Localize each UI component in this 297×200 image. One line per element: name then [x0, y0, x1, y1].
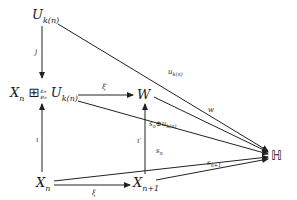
label-u-kn: uk(n)	[168, 69, 183, 77]
label-iota: ι	[36, 137, 39, 144]
label-text: w	[208, 106, 214, 114]
sub-e-sub: n	[44, 95, 47, 100]
label-s-n: sn	[156, 148, 163, 156]
node-sub: k(n)	[43, 16, 59, 25]
boxplus-symbol: ⊞	[29, 85, 40, 100]
node-h: ℍ	[271, 149, 282, 162]
label-sub: n+1	[211, 162, 222, 168]
label-iota-prime: ι′	[137, 138, 141, 145]
label-sub: n	[160, 150, 163, 156]
label-xi-prime: ξ′	[102, 84, 107, 91]
label-text: j	[35, 48, 37, 56]
node-x-n1: Xn+1	[133, 176, 159, 193]
node-base2: U	[51, 85, 62, 100]
label-sub2: k(n)	[166, 123, 176, 129]
label-s-oplus-u: sn⊕uk(n)	[149, 121, 176, 129]
arrow-s-n	[54, 157, 268, 181]
label-text: ι′	[137, 137, 141, 145]
node-sub: n	[45, 184, 50, 193]
node-w: W	[137, 88, 150, 101]
node-base: X	[36, 175, 45, 190]
node-x-boxplus-u: Xn ⊞εnen Uk(n)	[10, 86, 78, 103]
label-text: ξ	[92, 189, 96, 197]
node-base: X	[10, 85, 19, 100]
label-j: j	[35, 49, 37, 56]
node-sub2: k(n)	[62, 94, 78, 103]
node-sub: n	[19, 94, 24, 103]
label-text: ξ′	[102, 83, 107, 91]
node-base: X	[133, 175, 142, 190]
label-text: ι	[36, 136, 39, 144]
arrow-u	[58, 24, 268, 151]
node-base: ℍ	[271, 148, 282, 163]
node-u-kn-top: Uk(n)	[32, 8, 59, 25]
node-base: W	[137, 87, 150, 102]
label-sub: k(n)	[173, 71, 183, 77]
label-xi: ξ	[92, 190, 96, 197]
node-sub: n+1	[142, 184, 159, 193]
label-w: w	[208, 107, 214, 114]
label-s-n1: sn+1	[207, 160, 221, 168]
node-x-n: Xn	[36, 176, 50, 193]
node-base: U	[32, 7, 43, 22]
